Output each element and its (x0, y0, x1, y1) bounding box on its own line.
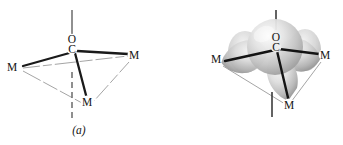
metal-metal-frame-a (23, 56, 129, 103)
figure-root: O C M M M (a) (0, 0, 343, 145)
caption-a: (a) (49, 124, 109, 136)
bond-c-metal-right-a (77, 51, 128, 54)
metal-front-label-a: M (82, 96, 92, 108)
bond-c-metal-left-a (23, 52, 73, 66)
bond-c-metal-front-a (75, 53, 87, 99)
panel-b-drawing: O C M M M (171, 0, 343, 145)
frame-right-front-a (94, 62, 129, 101)
carbon-label-b: C (272, 41, 280, 53)
atom-labels-a: O C M M M (6, 33, 141, 108)
metal-right-label-a: M (129, 49, 139, 61)
frame-left-front-a (23, 71, 82, 103)
metal-left-label-a: M (7, 61, 17, 73)
metal-left-label-b: M (211, 53, 221, 65)
panel-a: O C M M M (a) (0, 0, 172, 145)
panel-b: O C M M M (b) (171, 0, 343, 145)
carbon-label-a: C (68, 43, 76, 55)
metal-front-label-b: M (284, 99, 294, 111)
metal-right-label-b: M (320, 49, 330, 61)
